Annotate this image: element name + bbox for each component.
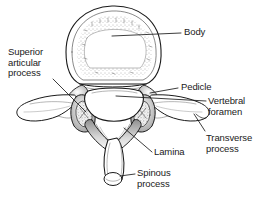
- leader-pedicle: [150, 88, 178, 93]
- spinous-process-part: [104, 138, 124, 186]
- label-body: Body: [184, 27, 205, 38]
- label-pedicle: Pedicle: [181, 82, 211, 93]
- label-spinous-process: Spinous process: [137, 168, 171, 189]
- label-transverse-process: Transverse process: [206, 133, 252, 154]
- label-lamina: Lamina: [154, 147, 185, 158]
- label-vertebral-foramen: Vertebral foramen: [208, 96, 245, 117]
- vertebra-figure: Superior articular process Body Pedicle …: [0, 0, 264, 200]
- vertebral-body-part: [66, 6, 161, 90]
- vertebra-drawing: [17, 6, 209, 186]
- label-superior-articular-process: Superior articular process: [8, 47, 43, 79]
